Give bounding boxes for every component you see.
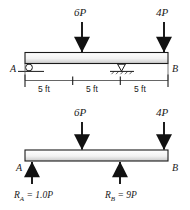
beam-diagram-figure: 6P 4P A B 5 ft 5 ft 5 ft 6P 4P A B RA = … [0, 0, 190, 210]
reaction-beam-group [25, 122, 168, 184]
dimension-label-2: 5 ft [86, 85, 98, 94]
reaction-load-label-6p: 6P [74, 107, 86, 118]
node-label-b-bottom: B [172, 163, 178, 173]
roller-support-icon [26, 64, 33, 71]
loaded-beam-body [25, 53, 168, 64]
reaction-load-label-4p: 4P [156, 107, 168, 118]
pin-support-icon [118, 64, 126, 71]
reaction-value-ra: 1.0P [35, 190, 53, 200]
reaction-beam-body [25, 150, 168, 161]
dimension-label-1: 5 ft [38, 85, 50, 94]
reaction-equals-ra: = [26, 190, 32, 200]
reaction-label-rb: RB = 9P [105, 191, 137, 203]
node-label-a-bottom: A [16, 163, 22, 173]
reaction-subscript-rb: B [111, 195, 115, 203]
reaction-label-ra: RA = 1.0P [14, 191, 53, 203]
load-label-4p: 4P [156, 7, 168, 18]
node-label-b-top: B [172, 64, 178, 74]
loaded-beam-group [18, 22, 168, 87]
reaction-subscript-ra: A [20, 195, 24, 203]
node-label-a-top: A [10, 64, 16, 74]
beam-diagram-canvas [0, 0, 190, 210]
dimension-label-3: 5 ft [134, 85, 146, 94]
reaction-value-rb: 9P [126, 190, 137, 200]
load-label-6p: 6P [74, 7, 86, 18]
reaction-equals-rb: = [117, 190, 123, 200]
